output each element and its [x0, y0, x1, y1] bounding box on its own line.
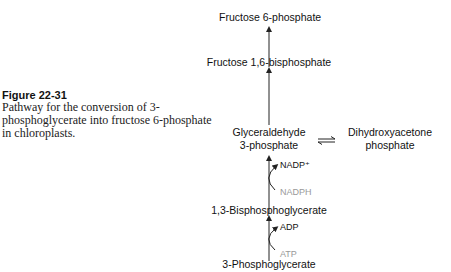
node-glyceraldehyde-3-phosphate: Glyceraldehyde 3-phosphate: [229, 126, 309, 152]
node-3-phosphoglycerate: 3-Phosphoglycerate: [209, 258, 329, 271]
cofactor-nadph: NADPH: [280, 187, 312, 197]
node-fructose-1-6-bisphosphate: Fructose 1,6-bisphosphate: [199, 56, 339, 69]
g3p-line1: Glyceraldehyde: [229, 126, 309, 139]
cofactor-curve-atp: [269, 228, 276, 250]
dhap-line1: Dihydroxyacetone: [340, 126, 440, 139]
dhap-line2: phosphate: [340, 139, 440, 152]
cofactor-adp: ADP: [280, 222, 299, 232]
cofactor-nadp: NADP⁺: [280, 160, 310, 170]
node-dihydroxyacetone-phosphate: Dihydroxyacetone phosphate: [340, 126, 440, 152]
cofactor-curve-nadph: [269, 166, 276, 190]
node-fructose-6-phosphate: Fructose 6-phosphate: [219, 11, 319, 24]
node-1-3-bisphosphoglycerate: 1,3-Bisphosphoglycerate: [199, 204, 339, 217]
g3p-line2: 3-phosphate: [229, 139, 309, 152]
